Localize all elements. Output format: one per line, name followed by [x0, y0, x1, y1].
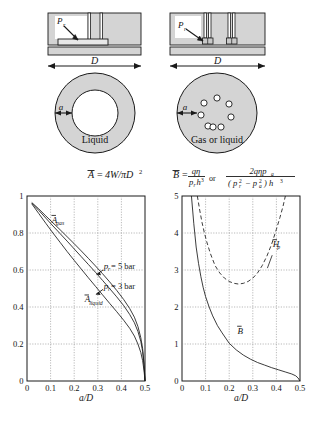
x-tick-label: 0.2	[69, 383, 80, 393]
flow-stiffness-chart: 00.10.20.30.40.5012345a/DHpB	[174, 191, 305, 403]
B-frac2-den-sub2: a	[259, 183, 262, 189]
supply-channel-2	[100, 13, 103, 40]
y-tick-label: 1	[174, 339, 178, 349]
right-dim-arrow-start	[170, 63, 177, 69]
right-fluid-label: Gas or liquid	[191, 134, 243, 145]
B-frac2-den-sub1: r	[239, 183, 242, 189]
B-frac2-den-h-exp: 3	[280, 178, 283, 184]
B-frac2-den-exp2: 2	[259, 178, 262, 184]
right-pressure-label: P	[177, 20, 184, 30]
left-schematic: PrD	[48, 13, 141, 69]
x-tick-label: 0.4	[116, 383, 127, 393]
B-frac2-den-open: ( p	[228, 178, 237, 188]
equation-A-exponent: 2	[139, 168, 142, 175]
left-dim-arrow-end	[134, 63, 141, 69]
y-tick-label: 0.8	[13, 228, 24, 238]
annotation-subscript: liquid	[89, 300, 103, 306]
orifice-hole-1	[214, 95, 220, 101]
y-tick-label: 2	[174, 302, 178, 312]
y-tick-label: 0.2	[13, 339, 24, 349]
orifice-hole-7	[201, 100, 207, 106]
right-diameter-label: D	[213, 55, 222, 66]
base-plate	[48, 47, 141, 55]
right-schematic: PrD	[170, 13, 265, 69]
x-tick-label: 0.3	[92, 383, 103, 393]
left-plan-view: aLiquid	[55, 73, 135, 153]
x-tick-label: 0.2	[224, 383, 235, 393]
left-diameter-label: D	[90, 55, 99, 66]
x-axis-label: a/D	[234, 393, 248, 403]
x-tick-label: 0.5	[140, 383, 151, 393]
x-tick-label: 0.4	[271, 383, 282, 393]
annotation-text: = 3 bar	[111, 281, 135, 291]
left-fluid-label: Liquid	[82, 134, 109, 145]
orifice-hole-4	[218, 124, 224, 130]
y-tick-label: 0.6	[13, 265, 24, 275]
y-tick-label: 3	[174, 265, 178, 275]
equation-A-rhs: 4W/πD	[105, 169, 134, 180]
x-tick-label: 0	[180, 383, 184, 393]
x-axis-label: a/D	[79, 393, 93, 403]
B-frac2-den-exp1: 2	[239, 178, 242, 184]
figure-canvas: PrDPrDaLiquidaGas or liquidA=4W/πD2B=qηp…	[0, 0, 312, 421]
orifice-hole-8	[210, 124, 216, 130]
x-tick-label: 0.3	[247, 383, 258, 393]
base-plate	[170, 47, 265, 55]
x-tick-label: 0	[25, 383, 29, 393]
curve-annotation: B	[237, 326, 243, 336]
left-x-axis: a/D	[79, 393, 93, 403]
y-tick-label: 4	[174, 228, 179, 238]
B-frac2-den-minus: − p	[245, 178, 257, 188]
figure-root: PrDPrDaLiquidaGas or liquidA=4W/πD2B=qηp…	[0, 0, 312, 421]
y-tick-label: 0	[19, 376, 23, 386]
B-frac1-numerator: qη	[192, 166, 200, 176]
B-frac2-den-close: ) h	[263, 178, 273, 188]
load-coefficient-chart: 00.10.20.30.40.500.20.40.60.81a/DAgasAli…	[13, 191, 150, 403]
curve-annotation: Hp	[272, 239, 280, 250]
B-frac1-den-h-exp: 3	[201, 177, 204, 183]
orifice-hole-2	[226, 101, 232, 107]
annotation-subscript: gas	[56, 220, 65, 226]
capillary-tube-wall-2	[233, 13, 235, 38]
B-frac2-numerator: 2qηp	[250, 166, 267, 176]
y-tick-label: 5	[174, 191, 178, 201]
equation-B-equals: =	[182, 169, 188, 180]
annotation-text: = 5 bar	[111, 261, 135, 271]
y-tick-label: 0	[174, 376, 178, 386]
x-tick-label: 0.1	[200, 383, 211, 393]
y-tick-label: 1	[19, 191, 23, 201]
orifice-hole-6	[198, 112, 204, 118]
right-gap-label: a	[183, 102, 188, 112]
left-dim-arrow-start	[48, 63, 55, 69]
supply-channel-1	[88, 13, 91, 40]
recess-land	[58, 39, 108, 45]
x-tick-label: 0.5	[295, 383, 306, 393]
annotation-subscript: p	[276, 244, 280, 250]
curve-annotation: pr = 3 bar	[103, 281, 136, 292]
left-equation: A=4W/πD2	[87, 168, 142, 180]
left-gap-label: a	[59, 102, 64, 112]
equation-equals: =	[97, 169, 103, 180]
right-equation: B=qηprh3or2qηpa( pr2− pa2) h3	[173, 166, 296, 189]
right-dim-arrow-end	[258, 63, 265, 69]
y-tick-label: 0.4	[13, 302, 24, 312]
right-x-axis: a/D	[234, 393, 248, 403]
left-pressure-label: P	[56, 16, 63, 26]
capillary-tube-wall-1	[209, 13, 211, 38]
curve-annotation: pr = 5 bar	[103, 261, 136, 272]
annotation-symbol: B	[237, 326, 243, 336]
recess-inner-circle	[72, 90, 118, 136]
x-tick-label: 0.1	[45, 383, 56, 393]
capillary-tube-2	[228, 13, 230, 38]
capillary-tube-1	[204, 13, 206, 38]
right-plan-view: aGas or liquid	[177, 73, 257, 153]
orifice-hole-3	[228, 114, 234, 120]
B-connector: or	[209, 174, 216, 183]
B-frac1-den-p: p	[188, 177, 193, 187]
